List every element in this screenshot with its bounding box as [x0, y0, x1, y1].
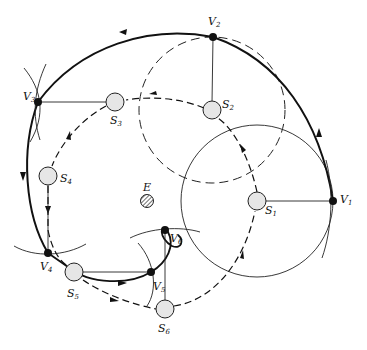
arc-v1: [322, 160, 331, 258]
arrow-icon: [119, 29, 127, 35]
outer-trajectory: [27, 34, 333, 253]
diagram-canvas: E S1 S2 S3 S4 S5 S6 V1 V2 V3 V4: [0, 0, 367, 350]
label-e: E: [142, 181, 151, 194]
svg-text:S2: S2: [222, 98, 235, 112]
svg-text:S4: S4: [60, 172, 72, 186]
svg-text:V2: V2: [208, 15, 221, 29]
arrow-icon: [316, 128, 322, 137]
vertex-v5: V5: [147, 268, 166, 294]
station-s1: S1: [248, 192, 277, 218]
svg-text:V5: V5: [153, 280, 166, 294]
svg-text:V3: V3: [23, 90, 36, 104]
station-s2: S2: [203, 98, 235, 119]
vertex-v4: V4: [40, 249, 52, 274]
svg-text:S1: S1: [265, 204, 277, 218]
svg-text:S3: S3: [110, 114, 123, 128]
station-s3: S3: [106, 93, 124, 128]
svg-text:V1: V1: [340, 193, 352, 207]
connector-s2-v2: [212, 37, 213, 103]
station-s4: S4: [39, 167, 72, 186]
arrow-icon: [240, 144, 246, 153]
station-s6: S6: [156, 300, 174, 336]
svg-text:V6: V6: [170, 232, 183, 246]
arrow-icon: [20, 172, 26, 181]
svg-text:S6: S6: [158, 322, 171, 336]
station-s5: S5: [65, 263, 83, 301]
svg-text:S5: S5: [67, 287, 80, 301]
central-body-e: [141, 195, 154, 208]
svg-text:V4: V4: [40, 260, 52, 274]
orbit-diagram: E S1 S2 S3 S4 S5 S6 V1 V2 V3 V4: [0, 0, 367, 350]
arrow-icon: [66, 131, 71, 140]
arrow-icon: [149, 91, 157, 95]
